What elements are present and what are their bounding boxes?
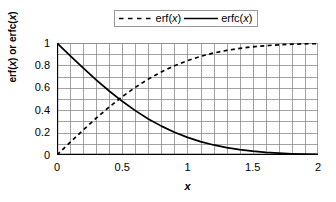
legend-erf-suffix: ) [178, 12, 182, 24]
legend-entry-erfc: erfc(x) [183, 11, 254, 26]
y-tick-label: 0.4 [24, 105, 50, 116]
legend-label-erf: erf(x) [154, 13, 184, 24]
y-axis-title-mid: ) or erfc( [7, 20, 18, 61]
solid-line-sample-icon [183, 13, 219, 24]
x-axis-title: x [57, 181, 318, 192]
x-tick-label: 2 [305, 162, 331, 173]
legend-label-erfc: erfc(x) [219, 13, 254, 24]
chart-figure: erf(x) erfc(x) erf(x) or erfc(x) x 00.20… [0, 0, 336, 202]
y-axis-title: erf(x) or erfc(x) [8, 0, 18, 107]
plot-area [57, 43, 318, 155]
y-tick-label: 1 [24, 38, 50, 49]
y-tick-label: 0 [24, 150, 50, 161]
x-tick-label: 0 [44, 162, 70, 173]
y-axis-title-suffix: ) [7, 11, 18, 14]
legend-erf-prefix: erf( [156, 12, 173, 24]
y-tick-label: 0.2 [24, 127, 50, 138]
x-tick-label: 0.5 [109, 162, 135, 173]
legend-erfc-prefix: erfc( [221, 12, 243, 24]
legend-entry-erf: erf(x) [118, 11, 184, 26]
x-tick-label: 1 [175, 162, 201, 173]
plot-canvas [57, 43, 318, 155]
x-tick-label: 1.5 [240, 162, 266, 173]
y-axis-title-var1: x [7, 61, 18, 67]
dashed-line-sample-icon [118, 13, 154, 24]
y-tick-label: 0.6 [24, 82, 50, 93]
legend-erfc-suffix: ) [249, 12, 253, 24]
y-axis-title-var2: x [7, 15, 18, 21]
y-axis-title-prefix: erf( [7, 66, 18, 82]
chart-legend: erf(x) erfc(x) [114, 10, 258, 27]
y-tick-label: 0.8 [24, 60, 50, 71]
